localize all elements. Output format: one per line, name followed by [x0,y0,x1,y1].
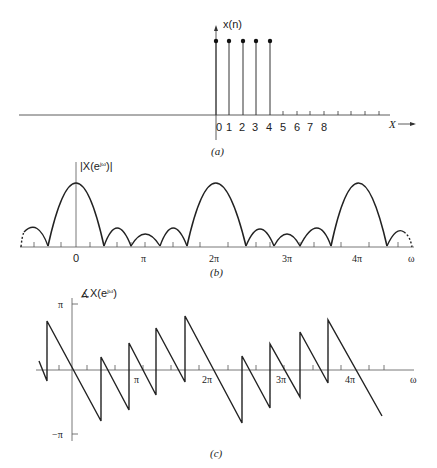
b-sidelobe [24,227,48,246]
a-ticks [283,111,379,115]
b-tick-labels: 0 π 2π 3π 4π ω [73,252,415,264]
svg-text:0: 0 [216,121,222,133]
c-phase-curve [39,316,382,423]
a-caption: (a) [211,145,224,158]
a-stems [216,41,270,115]
b-caption: (b) [210,266,223,279]
panel-b [20,162,414,247]
c-tick-labels: π 2π 3π 4π ω [134,374,417,385]
svg-text:3π: 3π [282,253,292,264]
b-mainlobe-4pi [331,183,387,246]
svg-text:2π: 2π [209,253,219,264]
a-x-arrow-icon [410,122,416,126]
svg-text:4: 4 [266,121,272,133]
a-y-arrow-icon [214,25,218,31]
svg-text:3: 3 [252,121,258,133]
c-caption: (c) [210,447,223,460]
svg-text:4π: 4π [345,374,355,385]
c-ylabel: ∡X(ejω) [80,287,117,299]
c-yneg-label: −π [52,429,63,440]
svg-text:π: π [141,253,146,264]
a-tick-labels: 0 1 2 3 4 5 6 7 8 [216,121,327,133]
b-mainlobe-2pi [187,183,246,246]
svg-text:7: 7 [307,121,313,133]
panel-c [36,298,414,441]
svg-text:3π: 3π [276,374,286,385]
svg-text:2π: 2π [202,374,212,385]
b-ylabel: |X(ejω)| [80,160,113,172]
svg-text:5: 5 [280,121,286,133]
svg-text:4π: 4π [352,253,362,264]
svg-text:ω: ω [410,374,417,385]
svg-text:1: 1 [226,121,232,133]
svg-text:6: 6 [294,121,300,133]
b-ticks [34,242,398,247]
a-xlabel: X [388,118,397,130]
a-dots [214,39,272,43]
svg-text:0: 0 [73,252,79,264]
svg-text:2: 2 [239,121,245,133]
svg-text:8: 8 [321,121,327,133]
figure: x(n) 0 1 2 3 4 5 6 7 8 X (a) |X(ejω)| 0 [0,0,437,468]
a-ylabel: x(n) [223,18,242,30]
svg-text:π: π [134,374,139,385]
c-ypos-label: π [58,299,63,310]
svg-text:ω: ω [408,253,415,264]
